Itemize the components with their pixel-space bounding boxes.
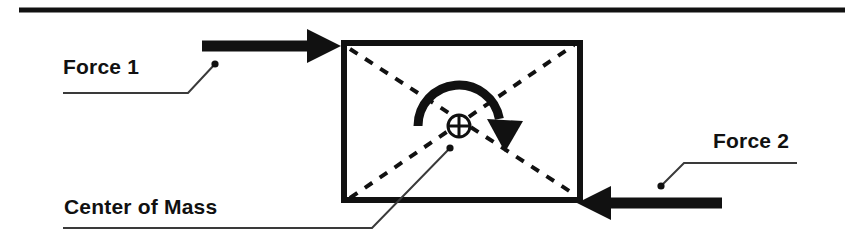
figure-canvas: Force 1 Force 2 Center of Mass [0, 0, 862, 252]
force-2-leader [657, 163, 797, 190]
center-of-mass-label: Center of Mass [64, 196, 217, 217]
force-1-label: Force 1 [63, 56, 139, 77]
center-of-mass-icon [447, 114, 471, 138]
rotation-arrow-icon [418, 85, 523, 152]
force-2-label: Force 2 [713, 130, 789, 151]
arrow-left-icon [577, 186, 722, 220]
arrow-right-icon [202, 29, 341, 63]
